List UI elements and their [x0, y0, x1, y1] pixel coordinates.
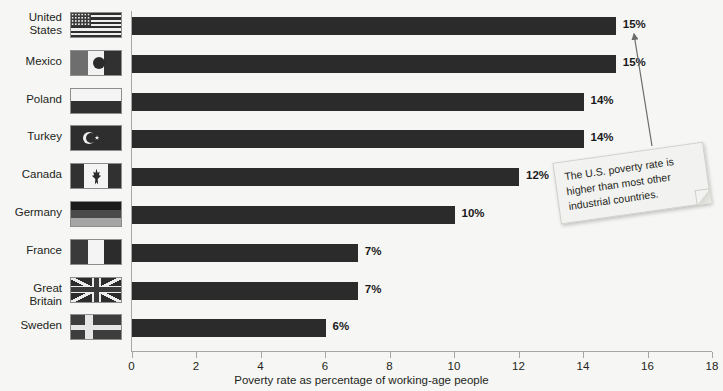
x-axis-tick-label: 16 [641, 360, 654, 372]
x-axis-line [131, 351, 712, 352]
flag-france-icon [70, 239, 122, 265]
flag-mexico-icon [70, 50, 122, 76]
x-axis-tick [519, 352, 520, 358]
callout-fold-corner [695, 188, 712, 205]
bar [132, 282, 358, 300]
category-label: UnitedStates [0, 11, 62, 37]
category-label: Mexico [0, 55, 62, 68]
bar-value-label: 7% [365, 245, 382, 257]
flag-great-britain-icon [70, 277, 122, 303]
x-axis-tick-label: 4 [257, 360, 263, 372]
category-label: Poland [0, 93, 62, 106]
category-label-line: States [0, 24, 62, 37]
category-label: Turkey [0, 130, 62, 143]
x-axis-tick [261, 352, 262, 358]
x-axis-tick [196, 352, 197, 358]
flag-canada-icon [70, 163, 122, 189]
x-axis-title: Poverty rate as percentage of working-ag… [0, 374, 723, 386]
x-axis-tick-label: 10 [448, 360, 461, 372]
x-axis-tick [648, 352, 649, 358]
flag-sweden-icon [70, 314, 122, 340]
bar [132, 55, 616, 73]
flag-germany-icon [70, 201, 122, 227]
x-axis-tick-label: 8 [386, 360, 392, 372]
x-axis-tick-label: 2 [193, 360, 199, 372]
bar-value-label: 6% [333, 320, 350, 332]
callout-text: The U.S. poverty rate is higher than mos… [563, 150, 704, 213]
bar-value-label: 10% [462, 207, 485, 219]
category-label-line: Canada [0, 168, 62, 181]
x-axis-tick [390, 352, 391, 358]
category-label-line: Great Britain [0, 282, 62, 308]
category-label: France [0, 244, 62, 257]
chart-row: Sweden6% [0, 313, 723, 350]
bar [132, 319, 326, 337]
category-label: Sweden [0, 319, 62, 332]
flag-turkey-icon [70, 125, 122, 151]
category-label-line: Turkey [0, 130, 62, 143]
flag-poland-icon [70, 88, 122, 114]
category-label-line: Germany [0, 206, 62, 219]
category-label: Germany [0, 206, 62, 219]
chart-row: Great Britain7% [0, 276, 723, 313]
category-label-line: Mexico [0, 55, 62, 68]
x-axis-tick [712, 352, 713, 358]
x-axis-tick-label: 14 [577, 360, 590, 372]
bar [132, 244, 358, 262]
bar [132, 130, 584, 148]
bar-value-label: 12% [526, 169, 549, 181]
category-label-line: Sweden [0, 319, 62, 332]
x-axis-tick [325, 352, 326, 358]
bar-value-label: 7% [365, 283, 382, 295]
x-axis-tick [132, 352, 133, 358]
category-label: Great Britain [0, 282, 62, 308]
bar [132, 17, 616, 35]
x-axis-tick [583, 352, 584, 358]
chart-row: France7% [0, 238, 723, 275]
bar [132, 93, 584, 111]
category-label-line: United [0, 11, 62, 24]
bar [132, 168, 519, 186]
x-axis-tick-label: 18 [706, 360, 719, 372]
chart-page: UnitedStates15%Mexico15%Poland14%Turkey1… [0, 0, 723, 391]
category-label: Canada [0, 168, 62, 181]
y-axis-line [131, 11, 132, 352]
x-axis-tick-label: 12 [512, 360, 525, 372]
x-axis-tick [454, 352, 455, 358]
x-axis-tick-label: 6 [322, 360, 328, 372]
x-axis-tick-label: 0 [128, 360, 134, 372]
category-label-line: Poland [0, 93, 62, 106]
category-label-line: France [0, 244, 62, 257]
flag-united-states-icon [70, 12, 122, 38]
bar [132, 206, 455, 224]
